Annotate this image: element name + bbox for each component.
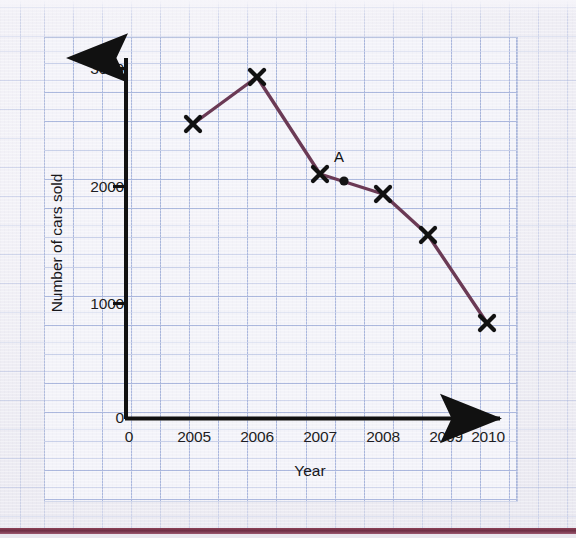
data-point-markers [186,70,494,330]
data-line-series [193,77,487,323]
line-chart-plot [0,0,576,538]
annotation-point-a [339,176,348,185]
data-point-2010 [480,316,494,330]
page-bottom-margin [0,534,576,538]
data-point-2009 [421,228,435,242]
data-point-2006 [250,70,264,84]
data-point-2005 [186,117,200,131]
